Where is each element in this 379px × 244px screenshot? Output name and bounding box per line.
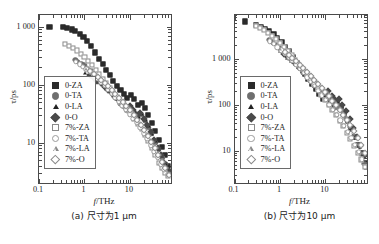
data-point	[312, 83, 317, 88]
y-tick	[235, 161, 238, 162]
panel-caption-b: (b) 尺寸为10 μm	[264, 209, 335, 222]
data-point	[308, 77, 313, 82]
x-tick	[74, 15, 75, 18]
data-point	[304, 68, 311, 75]
data-point	[97, 80, 104, 87]
data-point	[147, 125, 151, 128]
data-point	[158, 162, 163, 167]
data-point	[258, 25, 263, 30]
data-point	[137, 115, 141, 118]
legend-item-0-za: 0-ZA	[49, 80, 90, 91]
x-tick	[171, 180, 172, 183]
data-point	[351, 143, 356, 148]
data-point	[85, 66, 90, 71]
data-point	[322, 97, 327, 102]
data-point	[105, 87, 110, 92]
data-point	[137, 125, 142, 130]
y-tick	[39, 102, 42, 103]
data-point	[350, 124, 357, 131]
y-tick	[235, 175, 238, 176]
legend-item-0-la: 0-LA	[245, 101, 286, 112]
data-point	[74, 48, 79, 53]
data-point	[348, 137, 353, 142]
panel-a: τ/ps f/THz (a) 尺寸为1 μm 0-ZA0-TA0-LA0-O7%…	[0, 0, 190, 244]
data-point	[325, 88, 332, 95]
data-point	[81, 35, 86, 40]
legend-item-7pct-la: 7%-LA	[245, 144, 286, 155]
data-point	[267, 39, 272, 44]
x-tick	[280, 15, 281, 20]
y-tick	[168, 57, 171, 58]
y-tick-label: 100	[6, 79, 35, 88]
data-point	[140, 113, 144, 116]
x-tick	[152, 15, 153, 18]
data-point	[341, 124, 346, 129]
data-point	[342, 108, 349, 115]
data-point	[159, 159, 163, 162]
x-tick	[53, 15, 54, 18]
data-point	[329, 100, 334, 105]
data-point	[306, 76, 311, 81]
data-point	[149, 146, 154, 151]
diamond-open-marker-icon	[49, 156, 62, 163]
y-tick	[364, 137, 367, 138]
data-point	[298, 66, 303, 71]
x-tick	[144, 180, 145, 183]
data-point	[109, 91, 114, 96]
y-tick	[235, 73, 238, 74]
data-point	[125, 95, 130, 100]
data-point	[105, 86, 112, 93]
data-point	[132, 116, 137, 121]
x-tick	[266, 15, 267, 18]
data-point	[293, 63, 297, 66]
data-point	[293, 58, 300, 65]
data-point	[286, 54, 291, 59]
data-point	[282, 51, 287, 56]
x-tick	[270, 15, 271, 18]
legend-item-7pct-o: 7%-O	[245, 154, 286, 165]
legend-item-0-la: 0-LA	[49, 101, 90, 112]
data-point	[332, 102, 339, 109]
data-point	[109, 89, 113, 92]
data-point	[97, 56, 102, 61]
legend-label: 7%-TA	[62, 134, 89, 143]
y-tick	[39, 44, 42, 45]
square-solid-marker-icon	[49, 82, 62, 89]
y-tick	[235, 115, 238, 116]
y-tick	[364, 109, 367, 110]
data-point	[145, 134, 149, 137]
data-point	[274, 42, 279, 47]
legend-label: 0-ZA	[62, 81, 83, 90]
x-tick	[128, 180, 129, 183]
data-point	[84, 67, 89, 72]
y-tick	[364, 61, 367, 62]
x-tick	[39, 15, 40, 20]
data-point	[282, 51, 286, 54]
data-point	[258, 24, 263, 29]
data-point	[289, 57, 294, 62]
data-point	[93, 67, 98, 72]
data-point	[325, 95, 330, 100]
data-point	[107, 85, 112, 90]
y-tick	[235, 107, 238, 108]
x-tick	[157, 15, 158, 18]
y-tick	[364, 27, 367, 28]
data-point	[325, 91, 329, 94]
x-tick	[325, 179, 326, 184]
data-point	[343, 111, 347, 114]
y-tick	[39, 98, 42, 99]
legend-label: 7%-TA	[258, 134, 285, 143]
data-point	[327, 99, 332, 104]
data-point	[140, 115, 147, 122]
panel-caption-a: (a) 尺寸为1 μm	[71, 209, 136, 222]
data-point	[154, 144, 161, 151]
data-point	[354, 142, 359, 147]
data-point	[156, 138, 161, 143]
data-point	[342, 112, 347, 117]
data-point	[289, 59, 293, 62]
square-open-marker-icon	[49, 124, 62, 131]
data-point	[152, 146, 156, 149]
x-tick	[126, 15, 127, 18]
y-tick	[235, 15, 238, 16]
data-point	[334, 112, 339, 117]
